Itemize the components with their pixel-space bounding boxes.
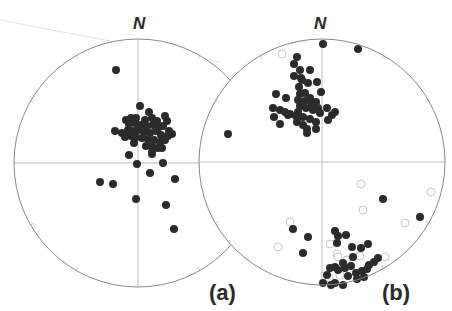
north-label-a: N (133, 14, 145, 34)
filled-pole-point (323, 271, 331, 279)
filled-pole-point (344, 272, 352, 280)
open-pole-point (357, 180, 365, 188)
filled-pole-point (159, 159, 167, 167)
filled-pole-point (354, 45, 362, 53)
filled-pole-point (130, 139, 138, 147)
filled-pole-point (112, 66, 120, 74)
filled-pole-point (298, 76, 306, 84)
filled-pole-point (293, 53, 301, 61)
filled-pole-point (349, 253, 357, 261)
filled-pole-point (133, 160, 141, 168)
open-pole-point (401, 219, 409, 227)
filled-pole-point (379, 195, 387, 203)
open-pole-point (278, 50, 286, 58)
filled-pole-point (282, 94, 290, 102)
filled-pole-point (374, 254, 382, 262)
filled-pole-point (365, 261, 373, 269)
filled-pole-point (269, 104, 277, 112)
filled-pole-point (304, 233, 312, 241)
filled-pole-point (290, 60, 298, 68)
filled-pole-point (171, 175, 179, 183)
filled-pole-point (316, 109, 324, 117)
panel-label-a: (a) (209, 280, 236, 306)
filled-pole-point (170, 225, 178, 233)
open-pole-point (326, 240, 334, 248)
open-pole-point (427, 188, 435, 196)
filled-pole-point (334, 232, 342, 240)
filled-pole-point (161, 136, 169, 144)
open-pole-point (359, 206, 367, 214)
filled-pole-point (295, 83, 303, 91)
filled-pole-point (109, 180, 117, 188)
filled-pole-point (289, 225, 297, 233)
filled-pole-point (334, 266, 342, 274)
filled-pole-point (148, 150, 156, 158)
filled-pole-point (224, 130, 232, 138)
filled-pole-point (158, 144, 166, 152)
filled-pole-point (272, 90, 280, 98)
filled-pole-point (146, 169, 154, 177)
filled-pole-point (302, 104, 310, 112)
filled-pole-point (323, 104, 331, 112)
open-pole-point (356, 252, 364, 260)
filled-pole-point (313, 78, 321, 86)
panel-label-b: (b) (382, 280, 410, 306)
filled-pole-point (96, 178, 104, 186)
filled-pole-point (416, 213, 424, 221)
filled-pole-point (309, 106, 317, 114)
filled-pole-point (290, 72, 298, 80)
filled-pole-point (333, 239, 341, 247)
filled-pole-point (364, 240, 372, 248)
open-pole-point (381, 253, 389, 261)
north-label-b: N (314, 14, 326, 34)
filled-pole-point (319, 40, 327, 48)
filled-pole-point (162, 201, 170, 209)
open-pole-point (286, 218, 294, 226)
filled-pole-point (319, 279, 327, 287)
filled-pole-point (312, 125, 320, 133)
filled-pole-point (342, 231, 350, 239)
filled-pole-point (348, 243, 356, 251)
filled-pole-point (303, 129, 311, 137)
open-pole-point (274, 243, 282, 251)
filled-pole-point (111, 127, 119, 135)
stereonet-panel-b (199, 39, 445, 289)
stereonet-figure (0, 0, 452, 311)
filled-pole-point (284, 111, 292, 119)
filled-pole-point (132, 195, 140, 203)
filled-pole-point (306, 66, 314, 74)
filled-pole-point (357, 244, 365, 252)
filled-pole-point (136, 102, 144, 110)
filled-pole-point (324, 116, 332, 124)
filled-pole-point (125, 151, 133, 159)
filled-pole-point (270, 113, 278, 121)
filled-pole-point (347, 262, 355, 270)
filled-pole-point (326, 264, 334, 272)
filled-pole-point (296, 66, 304, 74)
filled-pole-point (299, 249, 307, 257)
filled-pole-point (276, 120, 284, 128)
filled-pole-point (317, 88, 325, 96)
filled-pole-point (312, 118, 320, 126)
filled-pole-point (118, 129, 126, 137)
